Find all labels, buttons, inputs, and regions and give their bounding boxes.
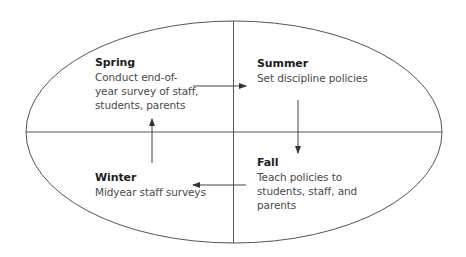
quadrant-fall: Fall Teach policies to students, staff, … bbox=[257, 156, 357, 212]
cycle-diagram bbox=[0, 0, 466, 257]
season-title-spring: Spring bbox=[95, 56, 199, 70]
season-description-spring: Conduct end-of- year survey of staff, st… bbox=[95, 70, 199, 112]
season-description-fall: Teach policies to students, staff, and p… bbox=[257, 170, 357, 212]
season-title-winter: Winter bbox=[95, 171, 206, 185]
season-title-fall: Fall bbox=[257, 156, 357, 170]
quadrant-winter: Winter Midyear staff surveys bbox=[95, 171, 206, 199]
quadrant-summer: Summer Set discipline policies bbox=[257, 57, 368, 85]
season-title-summer: Summer bbox=[257, 57, 368, 71]
season-description-summer: Set discipline policies bbox=[257, 71, 368, 85]
quadrant-spring: Spring Conduct end-of- year survey of st… bbox=[95, 56, 199, 112]
season-description-winter: Midyear staff surveys bbox=[95, 185, 206, 199]
